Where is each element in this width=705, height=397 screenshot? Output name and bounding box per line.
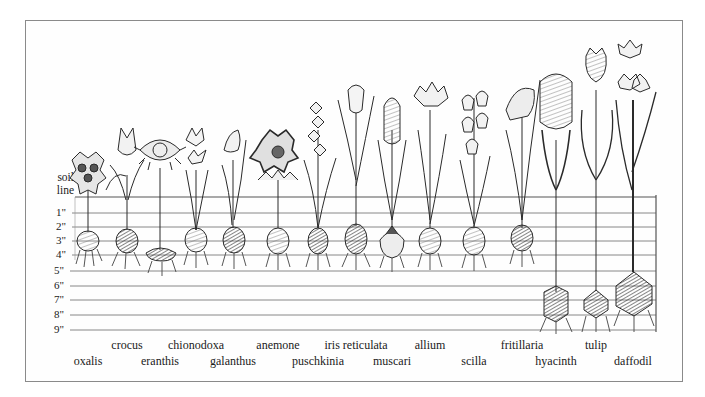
label-galanthus: galanthus [210, 355, 256, 367]
label-eranthis: eranthis [141, 355, 179, 367]
label-iris-reticulata: iris reticulata [325, 339, 388, 351]
chionodoxa-plant [184, 128, 208, 268]
tulip-plant [581, 48, 612, 332]
scilla-plant [460, 91, 490, 271]
label-scilla: scilla [461, 355, 486, 367]
anemone-plant [250, 130, 298, 270]
galanthus-plant [222, 130, 246, 269]
label-fritillaria: fritillaria [501, 339, 544, 351]
iris-reticulata-plant [338, 85, 374, 270]
puschkinia-plant [304, 102, 336, 270]
label-puschkinia: puschkinia [292, 355, 344, 367]
label-daffodil: daffodil [614, 355, 652, 367]
allium-plant [414, 82, 448, 270]
eranthis-plant [134, 140, 186, 276]
label-tulip: tulip [585, 339, 607, 351]
oxalis-plant [70, 152, 106, 267]
muscari-plant [378, 98, 406, 272]
label-anemone: anemone [256, 339, 299, 351]
label-chionodoxa: chionodoxa [168, 339, 224, 351]
label-oxalis: oxalis [74, 355, 103, 367]
daffodil-plant [614, 40, 656, 332]
label-muscari: muscari [373, 355, 411, 367]
fritillaria-plant [506, 80, 540, 267]
label-hyacinth: hyacinth [535, 355, 576, 367]
label-crocus: crocus [111, 339, 142, 351]
hyacinth-plant [540, 74, 572, 334]
label-allium: allium [415, 339, 446, 351]
